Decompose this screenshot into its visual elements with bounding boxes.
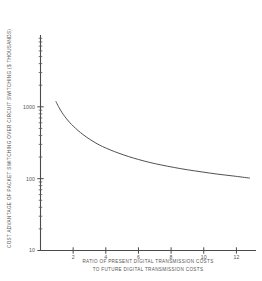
y-tick-label: 100 (26, 176, 35, 182)
x-tick-label: 2 (72, 254, 75, 260)
y-tick-label: 1000 (23, 104, 35, 110)
data-series-curve (56, 102, 249, 178)
y-axis-tick-labels: 101001000 (23, 104, 35, 254)
x-axis-title-line-2: TO FUTURE DIGITAL TRANSMISSION COSTS (93, 267, 204, 272)
y-axis-title: COST ADVANTAGE OF PACKET SWITCHING OVER … (7, 29, 12, 248)
x-axis-title-line-1: RATIO OF PRESENT DIGITAL TRANSMISSION CO… (82, 259, 213, 264)
y-tick-label: 10 (29, 247, 35, 253)
chart-page: 101001000 24681012 COST ADVANTAGE OF PAC… (0, 0, 262, 281)
x-tick-label: 12 (233, 254, 239, 260)
cost-advantage-line-chart: 101001000 24681012 COST ADVANTAGE OF PAC… (0, 0, 262, 281)
